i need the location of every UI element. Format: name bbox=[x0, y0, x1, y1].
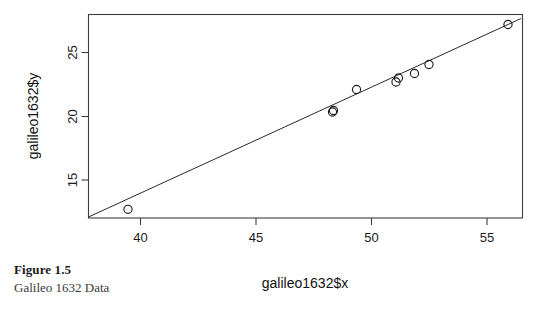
y-axis-title: galileo1632$y bbox=[25, 73, 41, 159]
figure-container: 40 45 50 55 15 20 25 galileo1632$x galil… bbox=[0, 0, 542, 309]
data-point bbox=[410, 69, 418, 77]
y-tick-label-20: 20 bbox=[65, 109, 80, 123]
caption-title: Figure 1.5 bbox=[14, 262, 214, 279]
x-tick-label-40: 40 bbox=[133, 230, 147, 245]
regression-line bbox=[89, 19, 522, 218]
x-axis-title: galileo1632$x bbox=[262, 275, 348, 291]
x-axis-ticks bbox=[141, 218, 488, 225]
y-axis-tick-labels: 15 20 25 bbox=[65, 45, 80, 187]
y-tick-label-25: 25 bbox=[65, 45, 80, 59]
x-tick-label-45: 45 bbox=[249, 230, 263, 245]
data-point bbox=[352, 85, 360, 93]
y-tick-label-15: 15 bbox=[65, 173, 80, 187]
x-tick-label-50: 50 bbox=[364, 230, 378, 245]
figure-caption: Figure 1.5 Galileo 1632 Data bbox=[14, 262, 214, 296]
caption-subtitle: Galileo 1632 Data bbox=[14, 280, 214, 297]
data-point bbox=[425, 60, 433, 68]
x-tick-label-55: 55 bbox=[480, 230, 494, 245]
x-axis-tick-labels: 40 45 50 55 bbox=[133, 230, 494, 245]
y-axis-ticks bbox=[82, 53, 89, 181]
data-point bbox=[124, 205, 132, 213]
